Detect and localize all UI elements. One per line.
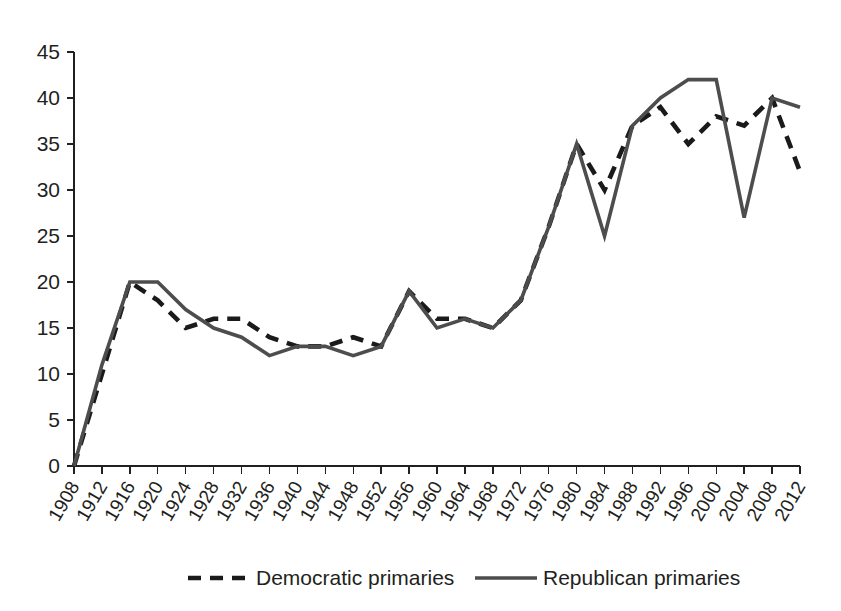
x-axis-tick-label: 2012 [770,478,809,525]
y-axis-tick-label: 25 [37,224,60,247]
series-line-republican [74,80,800,466]
series-line-democratic [74,98,800,466]
y-axis-tick-label: 35 [37,132,60,155]
line-chart: 051015202530354045 190819121916192019241… [0,0,841,611]
y-axis-tick-label: 0 [48,454,60,477]
legend-label-republican: Republican primaries [543,566,740,589]
y-axis-tick-label: 10 [37,362,60,385]
x-axis: 1908191219161920192419281932193619401944… [44,466,809,525]
legend-label-democratic: Democratic primaries [256,566,454,589]
chart-legend: Democratic primariesRepublican primaries [188,566,740,589]
y-axis: 051015202530354045 [37,40,74,477]
y-axis-tick-label: 20 [37,270,60,293]
y-axis-tick-label: 30 [37,178,60,201]
y-axis-tick-label: 15 [37,316,60,339]
y-axis-tick-label: 40 [37,86,60,109]
y-axis-tick-label: 45 [37,40,60,63]
y-axis-tick-label: 5 [48,408,60,431]
series-lines [74,80,800,466]
chart-figure: 051015202530354045 190819121916192019241… [0,0,841,611]
